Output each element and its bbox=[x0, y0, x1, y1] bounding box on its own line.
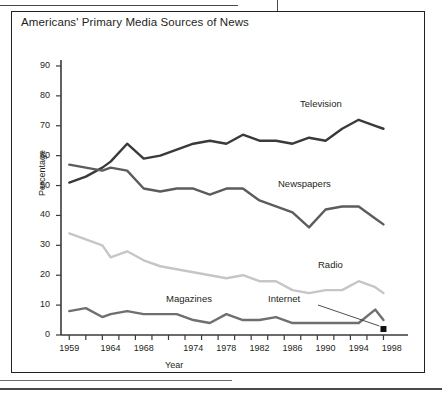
series-label-internet: Internet bbox=[268, 293, 300, 304]
chart-title: Americans' Primary Media Sources of News bbox=[21, 16, 249, 28]
x-tick-label: 1986 bbox=[276, 343, 310, 353]
y-tick-label: 80 bbox=[28, 90, 50, 100]
x-tick-label: 1968 bbox=[127, 343, 161, 353]
x-tick-label: 1994 bbox=[342, 343, 376, 353]
x-axis-title: Year bbox=[165, 360, 183, 370]
figure-frame bbox=[11, 11, 425, 373]
page-rule-bottom-thin bbox=[0, 380, 232, 381]
x-tick-label: 1990 bbox=[309, 343, 343, 353]
y-tick-label: 30 bbox=[28, 239, 50, 249]
series-label-newspapers: Newspapers bbox=[278, 178, 331, 189]
series-label-magazines: Magazines bbox=[166, 293, 212, 304]
y-axis-title: Percentage bbox=[37, 128, 47, 218]
x-tick-label: 1982 bbox=[242, 343, 276, 353]
y-tick-label: 20 bbox=[28, 269, 50, 279]
page-rule-top bbox=[0, 5, 238, 6]
page-rule-bottom-thick bbox=[0, 388, 442, 390]
series-label-television: Television bbox=[300, 98, 342, 109]
x-tick-label: 1998 bbox=[375, 343, 409, 353]
series-label-radio: Radio bbox=[318, 259, 343, 270]
y-tick-label: 10 bbox=[28, 299, 50, 309]
x-tick-label: 1978 bbox=[209, 343, 243, 353]
x-tick-label: 1974 bbox=[176, 343, 210, 353]
y-tick-label: 90 bbox=[28, 60, 50, 70]
x-tick-label: 1964 bbox=[94, 343, 128, 353]
y-tick-label: 0 bbox=[28, 329, 50, 339]
x-tick-label: 1959 bbox=[52, 343, 86, 353]
